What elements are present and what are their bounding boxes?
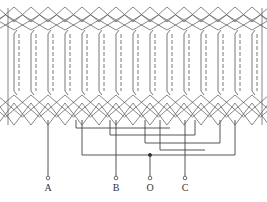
terminal-o: O xyxy=(146,155,153,193)
bottom-end-turn xyxy=(0,95,48,117)
coil-slot xyxy=(201,30,206,95)
coil-slot xyxy=(218,30,223,95)
winding-diagram: ABOC xyxy=(0,0,267,202)
coil-slot xyxy=(150,30,155,95)
terminal-c: C xyxy=(182,120,189,193)
terminal-b: B xyxy=(113,120,120,193)
terminal-label: A xyxy=(44,182,52,193)
top-end-turn xyxy=(31,15,82,30)
terminal-label: C xyxy=(182,182,189,193)
top-end-turn xyxy=(14,15,65,30)
bottom-end-turn xyxy=(218,95,267,117)
top-end-turn xyxy=(201,15,252,30)
coil-slot xyxy=(252,30,257,95)
coil-slot xyxy=(167,30,172,95)
top-end-turn xyxy=(48,15,99,30)
coil-group xyxy=(14,30,257,95)
terminals: ABOC xyxy=(44,120,188,193)
top-end-turn xyxy=(65,15,116,30)
coil-slot xyxy=(14,30,19,95)
top-end-turn xyxy=(218,15,267,30)
top-end-turn xyxy=(167,15,218,30)
coil-slot xyxy=(99,30,104,95)
terminal-label: O xyxy=(146,182,153,193)
top-end-turn xyxy=(133,15,184,30)
coil-slot xyxy=(65,30,70,95)
top-end-turn xyxy=(0,7,31,22)
top-end-turn xyxy=(0,15,48,30)
top-end-turn xyxy=(82,15,133,30)
top-end-turn xyxy=(184,15,235,30)
coil-slot xyxy=(116,30,121,95)
terminal-a: A xyxy=(44,120,52,193)
end-connections xyxy=(0,7,267,125)
top-end-turn xyxy=(116,15,167,30)
coil-slot xyxy=(48,30,53,95)
coil-slot xyxy=(82,30,87,95)
lead-wires xyxy=(76,120,235,157)
coil-slot xyxy=(235,30,240,95)
coil-slot xyxy=(184,30,189,95)
coil-slot xyxy=(133,30,138,95)
terminal-label: B xyxy=(113,182,120,193)
top-end-turn xyxy=(99,15,150,30)
coil-slot xyxy=(31,30,36,95)
top-end-turn xyxy=(150,15,201,30)
